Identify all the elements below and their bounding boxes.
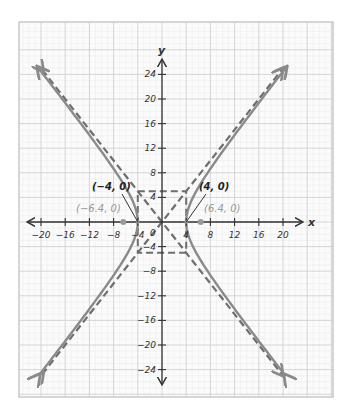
x-tick-label: 12 [229, 230, 241, 240]
x-tick-label: −12 [80, 230, 99, 240]
x-tick-label: 16 [253, 230, 265, 240]
vertex-label: (4, 0) [199, 181, 229, 192]
vertex-label: (−4, 0) [92, 181, 131, 192]
focus-point [198, 219, 204, 225]
y-tick-label: 24 [145, 69, 157, 79]
x-tick-label: −8 [107, 230, 121, 240]
origin-label: 0 [150, 228, 156, 238]
focus-point [120, 219, 126, 225]
focus-label: (−6.4, 0) [76, 203, 121, 214]
y-tick-label: −16 [137, 315, 156, 325]
y-tick-label: 12 [145, 143, 157, 153]
y-tick-label: 8 [150, 168, 156, 178]
x-tick-label: −4 [131, 230, 145, 240]
y-tick-label: −12 [137, 291, 156, 301]
x-tick-label: 4 [183, 230, 189, 240]
x-axis-label: x [307, 216, 316, 229]
y-tick-label: 16 [145, 119, 157, 129]
hyperbola-graph: x y −20−16−12−8−448121620 2420161284−4−8… [0, 0, 348, 418]
y-axis-label: y [158, 44, 166, 57]
x-tick-label: 8 [208, 230, 214, 240]
y-tick-label: −20 [137, 340, 156, 350]
x-tick-label: −16 [56, 230, 75, 240]
y-tick-label: 4 [150, 192, 156, 202]
y-tick-label: −24 [137, 365, 156, 375]
y-tick-label: −8 [143, 266, 157, 276]
x-tick-label: 20 [277, 230, 289, 240]
y-tick-label: 20 [145, 94, 157, 104]
y-tick-label: −4 [143, 242, 157, 252]
focus-label: (6.4, 0) [204, 203, 240, 214]
x-tick-label: −20 [32, 230, 51, 240]
